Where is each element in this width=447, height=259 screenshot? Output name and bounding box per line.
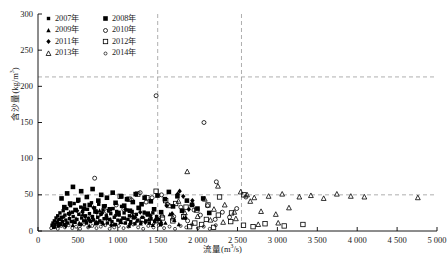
legend-marker-icon: [101, 26, 109, 35]
data-point: [168, 225, 171, 228]
data-point: [110, 190, 115, 195]
data-point: [280, 192, 285, 197]
data-point: [163, 221, 167, 225]
data-point: [108, 227, 111, 230]
legend-label: 2014年: [112, 49, 136, 57]
x-axis-title: 流量(m3/s): [0, 242, 445, 254]
data-point: [71, 215, 74, 218]
data-point: [79, 227, 82, 230]
data-point: [96, 198, 101, 203]
data-point: [59, 196, 64, 201]
data-point: [80, 216, 83, 219]
data-point: [128, 208, 133, 213]
data-point: [273, 212, 278, 217]
data-point: [122, 227, 125, 230]
y-tick-label: 300: [7, 9, 33, 19]
data-point: [144, 200, 148, 204]
data-point: [113, 226, 116, 229]
legend-label: 2010年: [112, 26, 136, 34]
data-point: [174, 227, 177, 230]
data-point: [202, 121, 206, 125]
legend-item-2007年: 2007年: [44, 14, 97, 23]
data-point: [301, 222, 305, 226]
legend-item-2012年: 2012年: [101, 37, 154, 46]
y-tick-label: 50: [7, 189, 33, 199]
legend-item-2013年: 2013年: [44, 49, 97, 58]
data-point: [334, 192, 339, 197]
data-point: [83, 203, 86, 206]
data-point: [87, 203, 92, 208]
data-series-layer: [50, 94, 421, 231]
data-point: [82, 206, 87, 211]
legend-marker-icon: [44, 14, 52, 23]
legend-item-2010年: 2010年: [101, 26, 154, 35]
data-point: [217, 195, 221, 199]
data-point: [238, 189, 243, 194]
legend-item-2009年: 2009年: [44, 26, 97, 35]
data-point: [235, 207, 239, 211]
data-point: [213, 217, 217, 221]
legend-label: 2013年: [55, 49, 79, 57]
data-point: [321, 196, 326, 201]
data-point: [119, 194, 124, 199]
data-point: [415, 195, 420, 200]
data-point: [263, 222, 267, 226]
data-point: [85, 195, 90, 200]
data-point: [221, 220, 226, 225]
data-point: [212, 207, 217, 212]
data-point: [252, 195, 257, 200]
data-point: [102, 204, 107, 209]
data-point: [56, 227, 59, 230]
data-point: [155, 193, 160, 198]
y-tick-label: 0: [7, 226, 33, 236]
chart-legend: 2007年2008年2009年2010年2011年2012年2013年2014年: [44, 13, 158, 61]
series-2013年: [154, 169, 421, 226]
data-point: [348, 194, 353, 199]
legend-item-2008年: 2008年: [101, 14, 154, 23]
data-point: [234, 216, 239, 221]
data-point: [62, 205, 67, 210]
data-point: [229, 219, 233, 223]
y-axis-title-text: 含沙量(kg/m3): [10, 67, 20, 120]
legend-label: 2009年: [55, 26, 79, 34]
data-point: [276, 220, 281, 225]
data-point: [251, 224, 255, 228]
data-point: [56, 214, 59, 217]
data-point: [68, 217, 71, 220]
data-point: [222, 202, 227, 207]
legend-marker-icon: [101, 49, 109, 58]
data-point: [91, 224, 94, 227]
data-point: [139, 202, 144, 207]
data-point: [79, 189, 84, 194]
data-point: [99, 225, 102, 228]
data-point: [109, 212, 112, 215]
data-point: [95, 227, 98, 230]
data-point: [199, 222, 203, 226]
data-point: [187, 224, 191, 228]
legend-label: 2012年: [112, 38, 136, 46]
data-point: [86, 208, 89, 211]
data-point: [167, 190, 172, 195]
data-point: [185, 169, 190, 174]
data-point: [241, 223, 245, 227]
data-point: [71, 185, 76, 190]
data-point: [88, 212, 91, 215]
data-point: [105, 195, 110, 200]
data-point: [208, 227, 211, 230]
data-point: [266, 194, 271, 199]
legend-item-2011年: 2011年: [44, 37, 97, 46]
legend-marker-icon: [44, 49, 52, 58]
data-point: [204, 217, 208, 221]
data-point: [58, 211, 61, 214]
data-point: [163, 227, 166, 230]
data-point: [97, 203, 100, 206]
data-point: [259, 209, 264, 214]
data-point: [99, 193, 104, 198]
data-point: [309, 193, 314, 198]
data-point: [124, 221, 127, 224]
data-point: [142, 227, 145, 230]
data-point: [138, 210, 142, 215]
legend-label: 2008年: [112, 15, 136, 23]
data-point: [151, 211, 154, 214]
data-point: [207, 211, 212, 216]
